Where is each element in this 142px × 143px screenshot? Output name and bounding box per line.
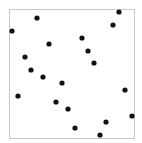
data-point — [46, 41, 51, 46]
data-point — [116, 9, 121, 14]
data-point — [72, 125, 77, 130]
data-point — [91, 60, 96, 65]
data-point — [28, 67, 33, 72]
data-point — [103, 119, 108, 124]
data-point — [79, 35, 84, 40]
data-point — [59, 80, 64, 85]
plot-frame — [10, 10, 135, 139]
data-point — [40, 74, 45, 79]
data-point — [65, 106, 70, 111]
data-point — [110, 22, 115, 27]
data-point — [85, 48, 90, 53]
data-point — [122, 87, 127, 92]
data-points — [9, 9, 134, 137]
data-point — [22, 54, 27, 59]
data-point — [34, 15, 39, 20]
data-point — [97, 132, 102, 137]
data-point — [53, 99, 58, 104]
scatter-plot — [0, 0, 142, 143]
data-point — [129, 113, 134, 118]
data-point — [9, 28, 14, 33]
data-point — [15, 93, 20, 98]
